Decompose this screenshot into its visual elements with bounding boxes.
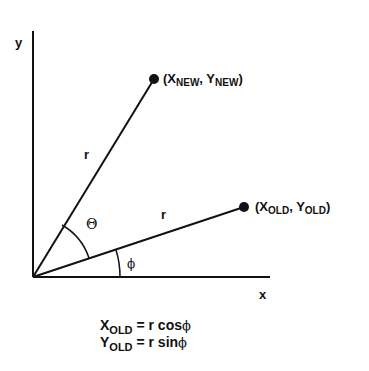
y-axis-label: y <box>15 36 22 49</box>
x-axis-label: x <box>259 288 266 301</box>
radius-label-old: r <box>161 208 166 221</box>
point-old <box>239 202 249 212</box>
point-old-label: (XOLD, YOLD) <box>255 200 330 216</box>
point-new <box>149 74 159 84</box>
theta-label: Θ <box>86 217 97 231</box>
rotation-diagram <box>0 0 369 371</box>
radius-new <box>33 79 154 277</box>
radius-old <box>33 207 244 277</box>
equation-y-old: YOLD = r sinϕ <box>100 335 187 353</box>
theta-arc <box>62 225 89 258</box>
point-new-label: (XNEW, YNEW) <box>163 72 243 88</box>
phi-arc <box>116 250 120 277</box>
phi-label: ϕ <box>127 258 135 270</box>
radius-label-new: r <box>84 148 89 161</box>
